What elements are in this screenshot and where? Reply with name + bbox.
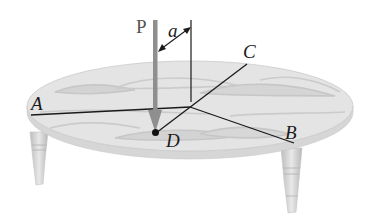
table-diagram: P a A B C D	[0, 0, 374, 218]
label-p: P	[136, 16, 147, 37]
label-c: C	[243, 41, 256, 62]
table-leg-left	[30, 132, 48, 185]
point-d	[152, 129, 159, 136]
label-a-point: A	[29, 93, 43, 114]
table-leg-right	[281, 148, 302, 213]
label-a-dimension: a	[168, 20, 178, 41]
label-b: B	[285, 122, 297, 143]
label-d: D	[165, 130, 180, 151]
